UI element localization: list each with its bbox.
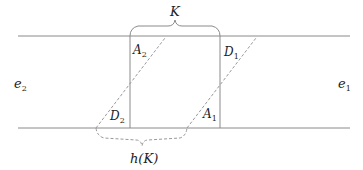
label-hK: h(K): [130, 151, 158, 166]
brace-hK: [96, 128, 187, 146]
label-D2: D2: [109, 109, 125, 125]
label-e2: e2: [14, 76, 27, 93]
diagram-canvas: K h(K) e2 e1 A2 D1 D2 A1: [0, 0, 363, 170]
label-A2: A2: [132, 43, 147, 59]
label-A1: A1: [202, 107, 217, 123]
dashed-right-slant: [187, 38, 256, 128]
label-D1: D1: [223, 45, 239, 61]
brace-K: [130, 20, 220, 36]
label-K: K: [169, 4, 181, 19]
label-e1: e1: [338, 76, 351, 93]
